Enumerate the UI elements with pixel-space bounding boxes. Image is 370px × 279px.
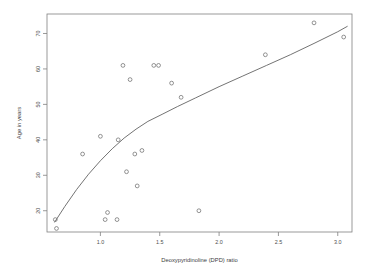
x-tick-label: 3.0 (334, 239, 342, 245)
x-tick-label: 1.5 (156, 239, 164, 245)
fitted-curve-path (55, 26, 348, 222)
data-point (115, 218, 119, 222)
y-tick-label: 70 (35, 30, 41, 36)
y-tick-label: 60 (35, 66, 41, 72)
data-point (106, 211, 110, 215)
data-point (197, 209, 201, 213)
fitted-curve (55, 26, 348, 222)
scatter-plot: 203040506070 1.01.52.02.53.0 Deoxypyridi… (0, 0, 370, 279)
data-point (55, 227, 59, 231)
data-point (157, 63, 161, 67)
y-tick-label: 40 (35, 137, 41, 143)
data-point (121, 63, 125, 67)
data-point (125, 170, 129, 174)
data-point (128, 78, 132, 82)
data-points (53, 21, 345, 230)
data-point (99, 134, 103, 138)
data-point (116, 138, 120, 142)
x-axis-ticks: 1.01.52.02.53.0 (97, 232, 342, 245)
data-point (103, 218, 107, 222)
x-axis-title: Deoxypyridinoline (DPD) ratio (161, 257, 237, 263)
y-tick-label: 20 (35, 208, 41, 214)
y-tick-label: 30 (35, 172, 41, 178)
data-point (140, 149, 144, 153)
data-point (81, 152, 85, 156)
y-axis-title: Age in years (16, 107, 22, 139)
y-tick-label: 50 (35, 101, 41, 107)
data-point (170, 81, 174, 85)
x-tick-label: 2.0 (215, 239, 223, 245)
chart-container: 203040506070 1.01.52.02.53.0 Deoxypyridi… (0, 0, 370, 279)
y-axis-ticks: 203040506070 (35, 30, 47, 213)
data-point (135, 184, 139, 188)
x-tick-label: 1.0 (97, 239, 105, 245)
data-point (152, 63, 156, 67)
data-point (312, 21, 316, 25)
data-point (263, 53, 267, 57)
data-point (342, 35, 346, 39)
data-point (179, 95, 183, 99)
data-point (133, 152, 137, 156)
x-tick-label: 2.5 (275, 239, 283, 245)
